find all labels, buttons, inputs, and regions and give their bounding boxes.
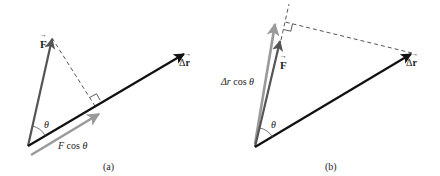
displacement-vector-arrow: [28, 54, 184, 146]
panel-b: [255, 4, 412, 147]
right-angle-marker: [284, 24, 293, 31]
force-vector-label: F: [40, 39, 47, 50]
displacement-vector-label: Δr: [179, 58, 190, 68]
work-diagram: F Δr θ F cos θ (a) F Δr θ Δr cos θ (b): [0, 0, 440, 176]
displacement-vector-arrow: [255, 54, 411, 147]
panel-b-caption: (b): [325, 162, 337, 172]
panel-a: [28, 38, 184, 155]
projection-label: F cos θ: [58, 141, 87, 151]
angle-theta-label: θ: [44, 120, 49, 130]
panel-a-caption: (a): [103, 162, 114, 172]
angle-theta-label: θ: [271, 120, 276, 130]
perpendicular-dashed-line: [52, 38, 95, 106]
perpendicular-dashed-line: [285, 22, 412, 53]
force-vector-label: F: [280, 60, 287, 71]
displacement-vector-label: Δr: [406, 58, 417, 68]
projection-label: Δr cos θ: [221, 77, 254, 87]
